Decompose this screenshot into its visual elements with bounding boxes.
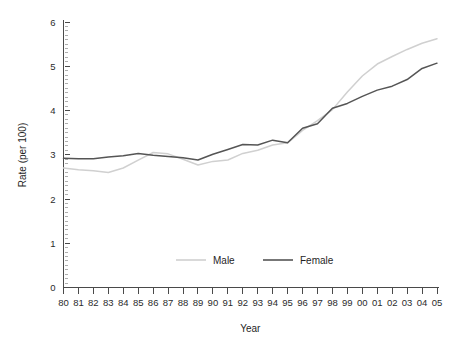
y-tick-label: 4 [50, 105, 55, 116]
x-tick-label: 89 [193, 297, 204, 308]
y-axis-tick-labels: 0123456 [50, 17, 55, 294]
chart-container: 0123456 80818283848586878889909192939495… [0, 0, 466, 343]
y-tick-label: 2 [50, 194, 55, 205]
x-axis-tick-labels: 8081828384858687888990919293949596979899… [58, 297, 442, 308]
x-tick-label: 95 [282, 297, 293, 308]
x-tick-label: 98 [327, 297, 338, 308]
x-tick-label: 93 [252, 297, 263, 308]
x-tick-label: 00 [357, 297, 368, 308]
x-tick-label: 04 [417, 297, 428, 308]
x-tick-label: 85 [133, 297, 144, 308]
x-tick-label: 97 [312, 297, 323, 308]
x-tick-label: 92 [237, 297, 248, 308]
x-tick-label: 03 [402, 297, 413, 308]
y-tick-label: 3 [50, 149, 55, 160]
x-tick-label: 84 [118, 297, 129, 308]
y-tick-label: 6 [50, 17, 55, 28]
x-tick-label: 99 [342, 297, 353, 308]
x-tick-label: 86 [148, 297, 159, 308]
x-tick-label: 83 [103, 297, 114, 308]
chart-legend: MaleFemale [176, 255, 334, 266]
x-tick-label: 96 [297, 297, 308, 308]
series-line-male [64, 39, 438, 173]
x-tick-label: 91 [223, 297, 234, 308]
line-chart: 0123456 80818283848586878889909192939495… [0, 0, 466, 343]
y-tick-label: 0 [50, 282, 55, 293]
x-tick-label: 87 [163, 297, 174, 308]
x-tick-label: 90 [208, 297, 219, 308]
y-tick-label: 1 [50, 238, 55, 249]
legend-label-female: Female [300, 255, 334, 266]
x-tick-label: 82 [88, 297, 99, 308]
y-tick-label: 5 [50, 61, 55, 72]
legend-label-male: Male [213, 255, 235, 266]
x-axis-title: Year [240, 323, 261, 334]
x-axis-ticks [64, 288, 438, 294]
y-axis-title: Rate (per 100) [17, 123, 28, 187]
x-tick-label: 81 [73, 297, 84, 308]
x-tick-label: 05 [432, 297, 443, 308]
x-tick-label: 94 [267, 297, 278, 308]
series-line-female [64, 63, 438, 160]
x-tick-label: 02 [387, 297, 398, 308]
series-lines [64, 39, 438, 173]
x-tick-label: 80 [58, 297, 69, 308]
x-tick-label: 88 [178, 297, 189, 308]
x-tick-label: 01 [372, 297, 383, 308]
